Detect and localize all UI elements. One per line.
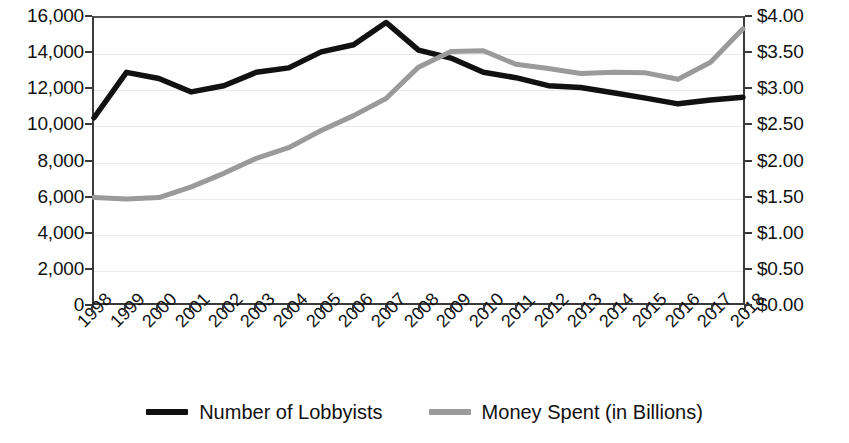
legend-item[interactable]: Money Spent (in Billions) (429, 402, 703, 422)
x-axis-tick-label: 2016 (662, 290, 703, 331)
x-axis-tick (744, 305, 746, 312)
x-axis-tick (189, 305, 191, 312)
x-axis-tick-label: 2008 (401, 290, 442, 331)
x-axis-tick (124, 305, 126, 312)
y-right-tick (745, 304, 752, 306)
y-left-tick (85, 196, 92, 198)
y-left-tick (85, 51, 92, 53)
x-axis-tick-label: 2010 (466, 290, 507, 331)
y-right-tick (745, 196, 752, 198)
x-axis-tick-label: 2007 (368, 290, 409, 331)
x-axis-tick (254, 305, 256, 312)
lobbying-dual-axis-line-chart: 02,0004,0006,0008,00010,00012,00014,0001… (0, 0, 849, 443)
x-axis-tick-label: 2009 (433, 290, 474, 331)
x-axis-labels: 1998199920002001200220032004200520062007… (0, 0, 849, 443)
x-axis-tick (287, 305, 289, 312)
x-axis-tick-label: 2006 (335, 290, 376, 331)
legend-swatch-icon (146, 409, 188, 415)
legend-swatch-icon (429, 409, 471, 415)
x-axis-tick (418, 305, 420, 312)
x-axis-tick-label: 2002 (205, 290, 246, 331)
y-left-tick (85, 15, 92, 17)
legend-label: Money Spent (in Billions) (482, 402, 703, 422)
x-axis-tick-label: 2012 (531, 290, 572, 331)
x-axis-tick (385, 305, 387, 312)
y-right-tick (745, 51, 752, 53)
y-right-tick (745, 15, 752, 17)
x-axis-tick-label: 2001 (172, 290, 213, 331)
x-axis-tick-label: 1998 (74, 290, 115, 331)
x-axis-tick-label: 2011 (498, 291, 538, 331)
x-axis-tick (581, 305, 583, 312)
x-axis-tick (548, 305, 550, 312)
y-right-tick (745, 160, 752, 162)
x-axis-tick (483, 305, 485, 312)
x-axis-tick-label: 1999 (107, 290, 148, 331)
x-axis-tick-label: 2015 (629, 290, 670, 331)
legend-item[interactable]: Number of Lobbyists (146, 402, 382, 422)
x-axis-tick (222, 305, 224, 312)
x-axis-tick-label: 2018 (727, 290, 768, 331)
y-left-tick (85, 268, 92, 270)
x-axis-tick (352, 305, 354, 312)
x-axis-tick-label: 2005 (303, 290, 344, 331)
x-axis-tick-label: 2003 (237, 290, 278, 331)
y-right-tick (745, 123, 752, 125)
y-left-tick (85, 87, 92, 89)
x-axis-tick (679, 305, 681, 312)
y-right-tick (745, 268, 752, 270)
chart-legend: Number of LobbyistsMoney Spent (in Billi… (0, 402, 849, 422)
y-left-tick (85, 123, 92, 125)
x-axis-tick (613, 305, 615, 312)
x-axis-tick (711, 305, 713, 312)
legend-label: Number of Lobbyists (199, 402, 382, 422)
x-axis-tick (450, 305, 452, 312)
x-axis-tick-label: 2017 (694, 290, 735, 331)
x-axis-tick-label: 2014 (596, 290, 637, 331)
x-axis-tick-label: 2004 (270, 290, 311, 331)
y-right-tick (745, 232, 752, 234)
x-axis-tick (91, 305, 93, 312)
x-axis-tick (156, 305, 158, 312)
x-axis-tick (320, 305, 322, 312)
x-axis-tick-label: 2000 (139, 290, 180, 331)
y-left-tick (85, 160, 92, 162)
y-left-tick (85, 232, 92, 234)
y-right-tick (745, 87, 752, 89)
x-axis-tick (515, 305, 517, 312)
x-axis-tick (646, 305, 648, 312)
x-axis-tick-label: 2013 (564, 290, 605, 331)
